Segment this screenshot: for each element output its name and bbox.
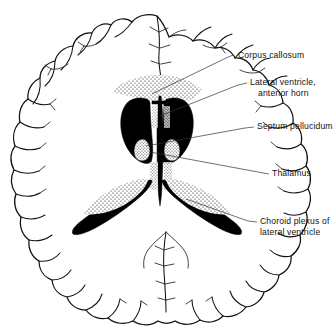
label-lateral-ventricle-line2: anterior horn (258, 88, 309, 98)
brain-diagram-svg: Corpus callosum Lateral ventricle, anter… (0, 0, 336, 328)
brain-axial-section-figure: Corpus callosum Lateral ventricle, anter… (0, 0, 336, 328)
thalamus-left (134, 139, 150, 161)
label-thalamus: Thalamus (272, 168, 311, 178)
label-choroid-plexus-line1: Choroid plexus of (260, 216, 330, 226)
label-corpus-callosum: Corpus callosum (238, 50, 304, 60)
label-lateral-ventricle-line1: Lateral ventricle, (250, 77, 316, 87)
label-choroid-plexus-line2: lateral ventricle (260, 227, 320, 237)
label-septum-pellucidum: Septum pellucidum (257, 121, 333, 131)
